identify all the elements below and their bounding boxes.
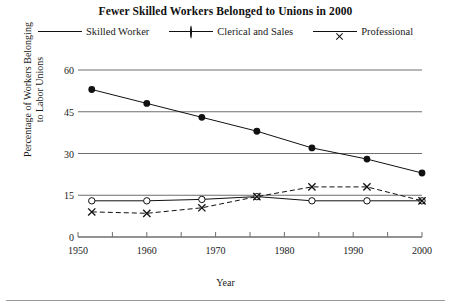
data-point [198, 114, 205, 121]
x-axis-title: Year [0, 277, 451, 288]
data-point [309, 145, 316, 152]
x-tick-label: 1980 [264, 245, 304, 256]
data-point [364, 156, 371, 163]
x-tick-label: 1950 [58, 245, 98, 256]
x-tick-label: 1970 [196, 245, 236, 256]
plot-area [0, 0, 451, 307]
footer-divider [6, 300, 445, 301]
x-tick-label: 1960 [127, 245, 167, 256]
data-point [143, 100, 150, 107]
data-point [364, 198, 370, 204]
data-point [144, 198, 150, 204]
data-point [199, 196, 205, 202]
x-tick-label: 1990 [333, 245, 373, 256]
data-point [89, 198, 95, 204]
chart-figure: Fewer Skilled Workers Belonged to Unions… [0, 0, 451, 307]
data-point [253, 128, 260, 135]
x-tick-label: 2000 [402, 245, 442, 256]
data-point [88, 86, 95, 93]
data-point [309, 198, 315, 204]
data-point [419, 170, 426, 177]
